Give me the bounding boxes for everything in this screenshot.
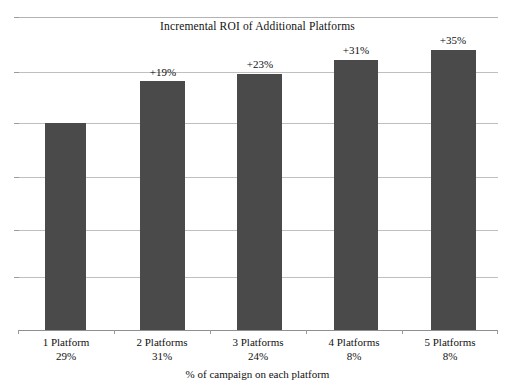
x-axis-line — [18, 330, 498, 331]
x-axis-tick — [210, 330, 211, 334]
x-axis-tick — [306, 330, 307, 334]
bar-value-label-5: +35% — [422, 34, 484, 46]
gridline-1 — [18, 17, 498, 18]
x-axis-category-3: 3 Platforms 24% — [210, 335, 306, 363]
y-axis-tick — [14, 72, 19, 73]
category-name-1: 1 Platform — [43, 336, 90, 348]
gridline-2 — [18, 72, 498, 73]
bar-value-label-2: +19% — [132, 66, 194, 78]
y-axis-tick — [14, 177, 19, 178]
category-name-4: 4 Platforms — [328, 336, 379, 348]
bar-2 — [140, 81, 185, 330]
x-axis-category-2: 2 Platforms 31% — [114, 335, 210, 363]
x-axis-category-4: 4 Platforms 8% — [306, 335, 402, 363]
x-axis-tick — [114, 330, 115, 334]
category-pct-4: 8% — [306, 349, 402, 363]
y-axis-tick — [14, 123, 19, 124]
bar-value-label-3: +23% — [229, 58, 291, 70]
y-axis-tick — [14, 17, 19, 18]
x-axis-title: % of campaign on each platform — [0, 368, 515, 380]
bar-1 — [45, 123, 86, 330]
x-axis-tick — [18, 330, 19, 334]
x-axis-tick — [402, 330, 403, 334]
bar-4 — [334, 60, 378, 330]
category-pct-5: 8% — [402, 349, 498, 363]
y-axis-tick — [14, 230, 19, 231]
category-pct-3: 24% — [210, 349, 306, 363]
chart-title: Incremental ROI of Additional Platforms — [0, 20, 515, 32]
bar-value-label-4: +31% — [325, 44, 387, 56]
bar-chart: +19% +23% +31% +35% 1 Platform 29% 2 Pla… — [0, 0, 515, 390]
category-name-5: 5 Platforms — [424, 336, 475, 348]
category-pct-1: 29% — [18, 349, 114, 363]
y-axis-tick — [14, 277, 19, 278]
x-axis-category-1: 1 Platform 29% — [18, 335, 114, 363]
category-name-2: 2 Platforms — [136, 336, 187, 348]
category-pct-2: 31% — [114, 349, 210, 363]
bar-3 — [237, 74, 282, 330]
x-axis-category-5: 5 Platforms 8% — [402, 335, 498, 363]
category-name-3: 3 Platforms — [232, 336, 283, 348]
bar-5 — [431, 50, 476, 330]
x-axis-tick — [497, 330, 498, 334]
